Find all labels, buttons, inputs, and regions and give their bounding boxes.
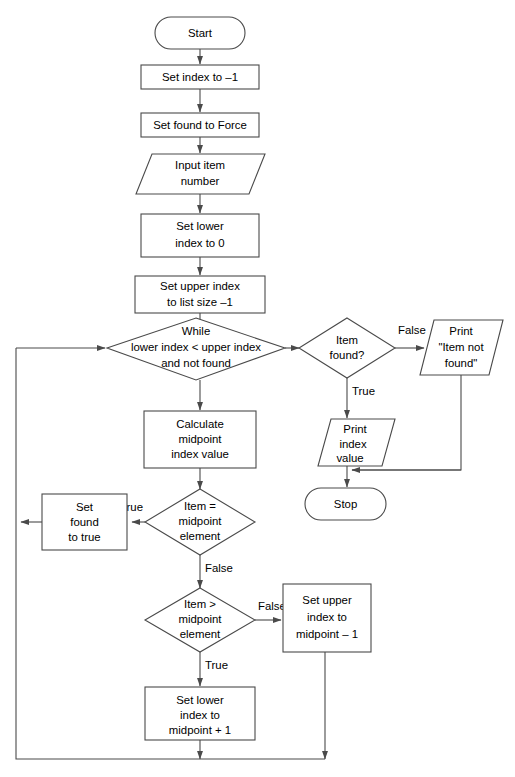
node-print-not-found: Print "Item not found" (420, 320, 503, 375)
item-found-line2: found? (330, 349, 365, 361)
item-gt-line2: midpoint (178, 613, 222, 625)
set-found-force-label: Set found to Force (153, 119, 247, 131)
item-eq-line3: element (180, 530, 221, 542)
set-upper-size-line1: Set upper index (160, 280, 240, 292)
node-set-found-true: Set found to true (42, 494, 127, 550)
item-eq-line2: midpoint (178, 515, 222, 527)
node-item-found: Item found? False True (299, 318, 426, 397)
node-while-condition: While lower index < upper index and not … (107, 318, 285, 380)
label-item-eq-false: False (205, 562, 233, 574)
print-not-found-line3: found" (445, 357, 478, 369)
node-set-lower-midpoint: Set lower index to midpoint + 1 (145, 687, 255, 740)
print-index-line1: Print (343, 423, 367, 435)
set-lower-line2: index to 0 (175, 237, 224, 249)
node-item-greater-midpoint: Item > midpoint element False True (145, 588, 286, 671)
node-calculate-midpoint: Calculate midpoint index value (144, 411, 256, 468)
flowchart-canvas: Start Set index to –1 Set found to Force… (0, 0, 515, 777)
set-upper-mid-line3: midpoint – 1 (296, 628, 358, 640)
node-set-upper-midpoint: Set upper index to midpoint – 1 (283, 584, 371, 652)
print-index-line3: value (336, 452, 363, 464)
node-stop: Stop (305, 488, 386, 520)
set-lower-mid-line1: Set lower (176, 694, 224, 706)
item-found-diamond (299, 318, 395, 378)
node-set-index: Set index to –1 (141, 65, 259, 89)
input-item-line2: number (181, 175, 220, 187)
set-found-true-line2: found (70, 516, 99, 528)
while-line1: While (182, 325, 210, 337)
flowchart-svg: Start Set index to –1 Set found to Force… (0, 0, 515, 777)
print-not-found-line2: "Item not (438, 341, 484, 353)
set-found-true-line1: Set (76, 501, 94, 513)
set-lower-line1: Set lower (176, 220, 224, 232)
node-input-item: Input item number (136, 154, 265, 194)
start-label: Start (188, 27, 213, 39)
set-upper-mid-line1: Set upper (302, 594, 352, 606)
item-gt-line3: element (180, 628, 221, 640)
set-lower-mid-line2: index to (180, 709, 220, 721)
node-set-found-force: Set found to Force (141, 113, 259, 137)
node-set-upper-size: Set upper index to list size –1 (135, 276, 265, 313)
print-not-found-line1: Print (449, 325, 473, 337)
input-item-line1: Input item (175, 159, 225, 171)
label-item-gt-false: False (258, 600, 286, 612)
while-line3: and not found (161, 357, 231, 369)
node-item-equals-midpoint: Item = midpoint element True False (120, 489, 255, 574)
label-item-gt-true: True (205, 659, 228, 671)
node-print-index: Print index value (318, 419, 395, 466)
calculate-line2: midpoint (178, 433, 222, 445)
label-item-found-false: False (398, 324, 426, 336)
item-found-line1: Item (336, 334, 358, 346)
while-line2: lower index < upper index (131, 341, 261, 353)
calculate-line3: index value (171, 448, 229, 460)
node-set-lower: Set lower index to 0 (141, 214, 259, 257)
print-index-line2: index (339, 438, 367, 450)
set-index-label: Set index to –1 (162, 71, 238, 83)
label-item-found-true: True (352, 385, 375, 397)
node-start: Start (155, 17, 245, 49)
calculate-line1: Calculate (176, 418, 224, 430)
set-lower-mid-line3: midpoint + 1 (169, 724, 231, 736)
set-upper-size-line2: to list size –1 (167, 296, 233, 308)
set-upper-mid-line2: index to (307, 611, 347, 623)
item-eq-line1: Item = (184, 500, 216, 512)
item-gt-line1: Item > (184, 598, 216, 610)
stop-label: Stop (334, 498, 357, 510)
set-found-true-line3: to true (68, 531, 100, 543)
